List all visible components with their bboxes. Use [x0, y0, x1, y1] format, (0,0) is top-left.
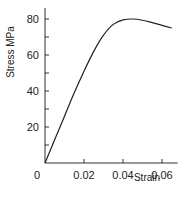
y-tick-label: 60 [27, 49, 39, 61]
x-axis-title: Strain [134, 172, 160, 183]
axes [45, 8, 178, 163]
ticks [45, 19, 162, 163]
origin-label: 0 [34, 169, 40, 181]
y-tick-label: 40 [27, 85, 39, 97]
y-axis-title: Stress MPa [5, 26, 16, 78]
stress-strain-chart: 204060800.020.040.060 Strain Stress MPa [0, 0, 181, 198]
y-tick-label: 20 [27, 121, 39, 133]
y-tick-label: 80 [27, 13, 39, 25]
x-tick-label: 0.04 [112, 169, 133, 181]
stress-strain-curve [45, 19, 172, 163]
x-tick-label: 0.02 [73, 169, 94, 181]
